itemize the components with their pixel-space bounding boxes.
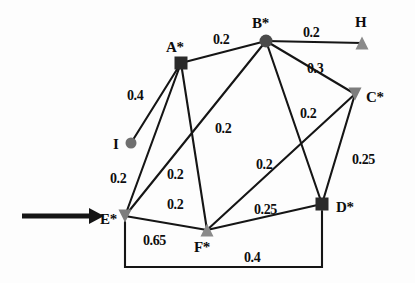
edge-weight-A-E: 0.2 [110, 172, 126, 186]
edge-weight-B-H: 0.2 [303, 26, 319, 40]
node-label-C: C* [366, 90, 384, 105]
node-label-B: B* [252, 16, 269, 31]
node-label-H: H [355, 15, 366, 30]
graph-figure: A*B*C*D*E*F*HI 0.20.20.30.40.20.20.20.20… [0, 0, 415, 283]
edge-A-F [181, 63, 207, 230]
node-A[interactable] [175, 57, 188, 70]
edge-weight-A-F: 0.2 [167, 168, 183, 182]
node-label-F: F* [194, 240, 210, 255]
edge-C-F [207, 94, 355, 230]
edge-weight-B-D: 0.2 [300, 107, 316, 121]
entry-arrow [22, 208, 104, 224]
node-label-D: D* [336, 200, 354, 215]
edge-weight-B-E: 0.2 [215, 122, 231, 136]
edge-weight-C-F: 0.2 [256, 158, 272, 172]
node-D[interactable] [316, 198, 329, 211]
edge-weight-B-C: 0.3 [307, 62, 323, 76]
node-label-I: I [113, 137, 119, 152]
edge-weight-E-F: 0.65 [143, 234, 166, 248]
edge-weight-E-F: 0.2 [167, 198, 183, 212]
edge-B-E [125, 41, 266, 216]
edge-weight-E-D: 0.4 [244, 251, 260, 265]
edge-weight-F-D: 0.25 [254, 203, 277, 217]
node-label-E: E* [100, 212, 117, 227]
edge-weight-I-A: 0.4 [127, 89, 143, 103]
node-B[interactable] [260, 35, 273, 48]
edge-weight-C-D: 0.25 [352, 153, 375, 167]
edge-E-F [125, 216, 207, 230]
edge-B-H [266, 41, 362, 43]
nodes-group [119, 35, 369, 237]
node-I[interactable] [126, 138, 137, 149]
edge-weight-A-B: 0.2 [213, 33, 229, 47]
node-label-A: A* [166, 40, 184, 55]
